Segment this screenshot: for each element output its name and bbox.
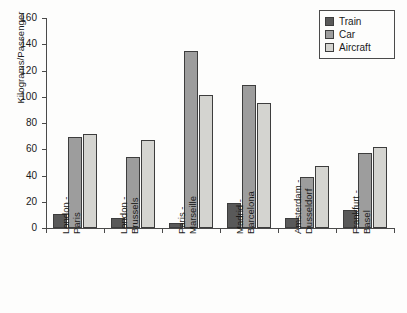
x-axis-tick (336, 228, 337, 233)
legend-item-aircraft: Aircraft (325, 41, 389, 54)
category-label-line2: Paris (71, 144, 82, 234)
y-axis-tick: 100 (42, 97, 47, 98)
legend-label-aircraft: Aircraft (339, 42, 371, 53)
y-axis-tick: 140 (42, 44, 47, 45)
bar-aircraft (83, 134, 98, 229)
category-label-line1: Madrid - (235, 144, 246, 234)
bar-aircraft (373, 147, 388, 228)
x-axis-category-label: Paris -Marseille (177, 144, 198, 234)
bar-aircraft (315, 166, 330, 228)
category-label-line1: London - (61, 144, 72, 234)
bar-aircraft (257, 103, 272, 228)
chart-legend: TrainCarAircraft (319, 10, 395, 59)
x-axis-tick (394, 228, 395, 233)
y-axis-tick-label: 0 (31, 222, 37, 233)
y-axis-tick-label: 40 (26, 170, 37, 181)
legend-swatch-aircraft (325, 43, 334, 52)
x-axis-category-label: Frankfurt -Basel (351, 144, 372, 234)
y-axis-tick: 20 (42, 202, 47, 203)
category-label-line2: Brussels (129, 144, 140, 234)
y-axis-tick: 160 (42, 18, 47, 19)
category-label-line2: Basel (361, 144, 372, 234)
bar-chart: Kilograms/Passenger 02040608010012014016… (0, 0, 407, 313)
category-label-line2: Dusseldorf (303, 144, 314, 234)
category-label-line1: London - (119, 144, 130, 234)
y-axis-tick-label: 160 (20, 12, 37, 23)
legend-item-car: Car (325, 28, 389, 41)
y-axis-tick: 40 (42, 176, 47, 177)
category-label-line1: Frankfurt - (351, 144, 362, 234)
x-axis-category-label: Amsterdam -Dusseldorf (293, 144, 314, 234)
x-axis-tick (104, 228, 105, 233)
y-axis-tick: 120 (42, 71, 47, 72)
y-axis-tick-label: 120 (20, 65, 37, 76)
legend-item-train: Train (325, 15, 389, 28)
category-label-line2: Barcelona (245, 144, 256, 234)
category-label-line1: Amsterdam - (293, 144, 304, 234)
category-label-line1: Paris - (177, 144, 188, 234)
y-axis-tick-label: 100 (20, 91, 37, 102)
y-axis-tick-label: 20 (26, 196, 37, 207)
x-axis-category-label: London -Paris (61, 144, 82, 234)
legend-swatch-car (325, 30, 334, 39)
y-axis-tick: 60 (42, 149, 47, 150)
x-axis-category-label: Madrid -Barcelona (235, 144, 256, 234)
category-label-line2: Marseille (187, 144, 198, 234)
legend-label-train: Train (339, 16, 361, 27)
legend-swatch-train (325, 17, 334, 26)
x-axis-category-label: London -Brussels (119, 144, 140, 234)
y-axis-tick: 80 (42, 123, 47, 124)
y-axis-tick-label: 80 (26, 117, 37, 128)
bar-aircraft (199, 95, 214, 228)
x-axis-tick (220, 228, 221, 233)
x-axis-tick (278, 228, 279, 233)
bar-aircraft (141, 140, 156, 228)
x-axis-tick (162, 228, 163, 233)
y-axis-tick-label: 140 (20, 38, 37, 49)
y-axis-tick-label: 60 (26, 143, 37, 154)
legend-label-car: Car (339, 29, 355, 40)
x-axis-tick (46, 228, 47, 233)
